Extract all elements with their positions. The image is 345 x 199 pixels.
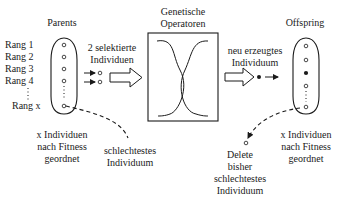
deleted-individual-icon [244, 141, 248, 145]
selection-label-1: 2 selektierte [88, 42, 137, 53]
ga-diagram: Parents Rang 1 Rang 2 Rang 3 Rang 4 Rang… [0, 0, 345, 199]
block-arrow-from-operators-icon [225, 68, 254, 86]
individual-icon [62, 43, 66, 47]
selection-label-2: Individuen [90, 54, 133, 65]
worst-label-1: schlechtestes [104, 145, 156, 156]
block-arrow-to-operators-icon [110, 68, 142, 87]
rank-label-4: Rang 4 [5, 75, 34, 86]
worst-label-2: Individuum [107, 157, 154, 168]
inserted-individual-icon [304, 71, 308, 75]
newborn-label-2: Individuum [232, 57, 279, 68]
offspring-caption-2: nach Fitness [281, 141, 331, 152]
parents-individuals [62, 43, 66, 108]
offspring-population-oval [293, 38, 319, 114]
individual-icon [304, 84, 308, 88]
offspring-caption-1: x Individuen [281, 129, 332, 140]
parents-caption-1: x Individuen [37, 129, 88, 140]
selected-individual-icon [98, 71, 102, 75]
crossover-curve-icon [181, 41, 208, 116]
offspring-caption-3: geordnet [289, 153, 324, 164]
worst-individual-icon [304, 105, 308, 109]
delete-label-2: bisher [228, 161, 253, 172]
delete-label-4: Individuum [217, 185, 264, 196]
rank-labels: Rang 1 Rang 2 Rang 3 Rang 4 Rang x [5, 39, 41, 111]
rank-label-2: Rang 2 [5, 51, 34, 62]
selected-individuals [84, 71, 102, 84]
selected-individual-icon [98, 80, 102, 84]
parents-caption-3: geordnet [45, 153, 80, 164]
individual-icon [304, 58, 308, 62]
crossover-curve-icon [157, 41, 184, 116]
rank-label-x: Rang x [12, 100, 41, 111]
rank-label-1: Rang 1 [5, 39, 34, 50]
operators-title-1: Genetische [161, 6, 206, 17]
parents-caption-2: nach Fitness [37, 141, 87, 152]
offspring-title: Offspring [286, 17, 325, 28]
operators-title-2: Operatoren [161, 18, 206, 29]
rank-label-3: Rang 3 [5, 63, 34, 74]
parents-title: Parents [47, 17, 77, 28]
delete-label-1: Delete [227, 149, 254, 160]
individual-icon [62, 67, 66, 71]
individual-icon [62, 55, 66, 59]
delete-label-3: schlechtestes [214, 173, 266, 184]
new-individual-icon [257, 75, 261, 79]
newborn-label-1: neu erzeugtes [228, 45, 283, 56]
individual-icon [304, 44, 308, 48]
offspring-individuals [304, 44, 308, 109]
parents-population-oval [51, 38, 77, 114]
individual-icon [62, 79, 66, 83]
worst-individual-icon [62, 104, 66, 108]
